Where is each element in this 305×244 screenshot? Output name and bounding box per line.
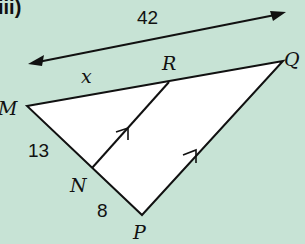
- arrowhead-left-icon: [28, 55, 44, 66]
- triangle-MQP: [27, 61, 283, 215]
- triangle-diagram: iii) 42 x M R Q N P 13 8: [0, 0, 305, 244]
- label-N: N: [69, 174, 88, 196]
- question-label: iii): [0, 0, 21, 18]
- length-MN: 13: [28, 140, 49, 161]
- measure-42: 42: [137, 7, 158, 28]
- arrowhead-right-icon: [270, 11, 286, 21]
- label-Q: Q: [284, 48, 300, 70]
- label-P: P: [132, 221, 147, 243]
- label-x: x: [81, 65, 92, 87]
- length-NP: 8: [97, 200, 108, 221]
- label-R: R: [161, 52, 176, 74]
- label-M: M: [0, 97, 18, 119]
